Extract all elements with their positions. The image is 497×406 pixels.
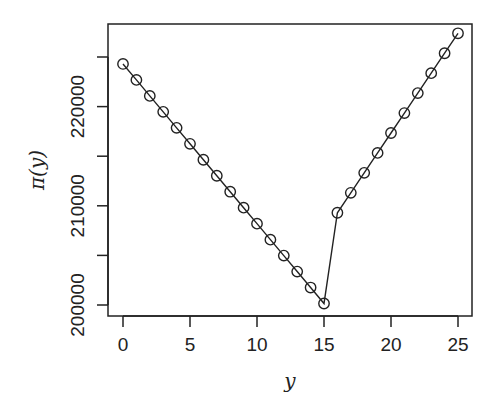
- chart: 0510152025 200000210000220000 y π(y): [0, 0, 497, 406]
- x-axis-title: y: [283, 369, 296, 393]
- y-axis-title: π(y): [25, 150, 49, 191]
- x-tick-label: 20: [380, 334, 401, 355]
- y-tick-label: 210000: [67, 174, 88, 237]
- x-tick-label: 5: [185, 334, 196, 355]
- y-axis: 200000210000220000: [67, 57, 108, 337]
- x-tick-label: 10: [246, 334, 267, 355]
- y-tick-label: 200000: [67, 273, 88, 336]
- x-tick-label: 15: [313, 334, 334, 355]
- x-tick-label: 0: [118, 334, 129, 355]
- x-axis: 0510152025: [118, 316, 469, 355]
- y-tick-label: 220000: [67, 75, 88, 138]
- plot-frame: [108, 24, 472, 316]
- series-line: [118, 28, 463, 309]
- x-tick-label: 25: [447, 334, 468, 355]
